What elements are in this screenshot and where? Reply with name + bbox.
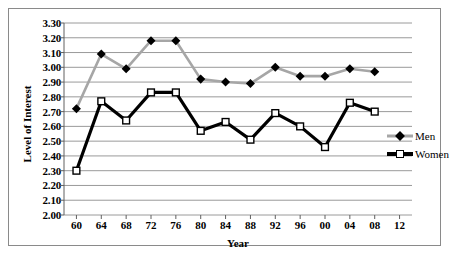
x-tick-label: 88 [245, 219, 256, 231]
y-tick-label: 2.60 [43, 120, 61, 132]
y-tick-label: 3.30 [43, 17, 61, 29]
data-point-marker [297, 123, 304, 130]
data-point-marker [320, 72, 329, 81]
data-point-marker [72, 104, 81, 113]
x-tick-label: 08 [369, 219, 380, 231]
square-marker-icon [396, 150, 404, 158]
data-point-marker [123, 117, 130, 124]
y-tick-label: 2.10 [43, 194, 61, 206]
data-point-marker [371, 108, 378, 115]
x-axis-tick-labels: 6064687276808488929600040812 [64, 219, 412, 237]
chart-plot-frame: Level of Interest 2.002.102.202.302.402.… [8, 8, 441, 246]
legend-item-men: Men [387, 127, 457, 145]
x-tick-label: 68 [121, 219, 132, 231]
data-point-marker [148, 89, 155, 96]
legend-label-men: Men [415, 130, 435, 142]
y-tick-label: 2.80 [43, 91, 61, 103]
x-tick-label: 76 [170, 219, 181, 231]
data-point-marker [322, 144, 329, 151]
chart-figure: Level of Interest 2.002.102.202.302.402.… [0, 0, 457, 272]
x-tick-label: 64 [96, 219, 107, 231]
series-line-men [76, 41, 374, 109]
x-tick-label: 04 [344, 219, 355, 231]
x-tick-label: 84 [220, 219, 231, 231]
y-tick-label: 3.20 [43, 32, 61, 44]
legend-item-women: Women [387, 145, 457, 163]
legend-swatch-men [387, 130, 413, 142]
data-point-marker [370, 67, 379, 76]
x-tick-label: 72 [146, 219, 157, 231]
x-tick-label: 80 [195, 219, 206, 231]
series-line-women [76, 92, 374, 170]
y-tick-label: 2.00 [43, 209, 61, 221]
y-tick-label: 2.50 [43, 135, 61, 147]
legend-swatch-women [387, 148, 413, 160]
x-tick-label: 60 [71, 219, 82, 231]
data-point-marker [73, 167, 80, 174]
x-tick-label: 92 [270, 219, 281, 231]
y-tick-label: 2.70 [43, 106, 61, 118]
y-tick-label: 2.40 [43, 150, 61, 162]
data-point-marker [296, 72, 305, 81]
data-point-marker [172, 89, 179, 96]
data-point-marker [247, 136, 254, 143]
y-tick-label: 2.90 [43, 76, 61, 88]
data-point-marker [345, 64, 354, 73]
x-tick-label: 96 [295, 219, 306, 231]
data-point-marker [221, 78, 230, 87]
data-point-marker [346, 99, 353, 106]
x-axis-title: Year [64, 237, 412, 249]
x-tick-label: 00 [320, 219, 331, 231]
y-tick-label: 2.20 [43, 179, 61, 191]
data-point-marker [272, 110, 279, 117]
data-point-marker [197, 127, 204, 134]
data-point-marker [98, 98, 105, 105]
y-axis-tick-labels: 2.002.102.202.302.402.502.602.702.802.90… [9, 23, 61, 215]
diamond-marker-icon [395, 131, 405, 141]
y-tick-label: 2.30 [43, 165, 61, 177]
data-series-layer [64, 23, 412, 215]
legend-label-women: Women [415, 148, 449, 160]
chart-legend: Men Women [387, 127, 457, 163]
data-point-marker [222, 119, 229, 126]
y-tick-label: 3.10 [43, 47, 61, 59]
x-tick-label: 12 [394, 219, 405, 231]
plot-area [64, 23, 412, 215]
y-tick-label: 3.00 [43, 61, 61, 73]
